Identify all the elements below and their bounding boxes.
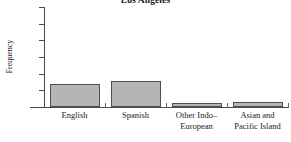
x-axis-separator: [227, 103, 228, 108]
y-tick-mark: [39, 40, 44, 41]
x-axis-line: [30, 107, 288, 108]
x-axis-label-line: Asian and: [221, 110, 291, 121]
y-axis-label: Frequency: [5, 22, 14, 92]
chart-title: Los Angeles: [0, 0, 291, 5]
y-tick-mark: [39, 74, 44, 75]
y-axis-line: [44, 7, 45, 108]
y-tick-mark: [39, 57, 44, 58]
x-axis-separator: [166, 103, 167, 108]
bar: [233, 102, 283, 107]
chart-figure: Los Angeles Frequency 010002000300040005…: [0, 0, 291, 142]
y-tick-mark: [39, 24, 44, 25]
x-axis-separator: [105, 103, 106, 108]
bar: [50, 84, 100, 107]
y-tick-mark: [39, 90, 44, 91]
bar: [111, 81, 161, 107]
y-tick-mark: [39, 107, 44, 108]
x-axis-label: Asian andPacific Island: [221, 110, 291, 132]
x-axis-label-line: Pacific Island: [221, 121, 291, 132]
y-tick-mark: [39, 7, 44, 8]
x-axis-separator: [288, 103, 289, 108]
bar: [172, 103, 222, 107]
